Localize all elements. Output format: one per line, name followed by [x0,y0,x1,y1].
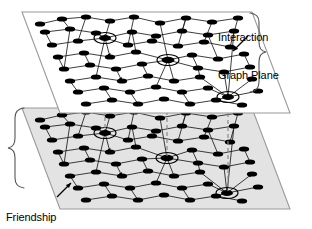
interaction-plane-label: Interaction Graph Plane [218,6,279,106]
figure-container: Interaction Graph Plane Friendship Graph… [0,0,312,229]
interaction-label-line2: Graph Plane [218,69,279,82]
interaction-label-line1: Interaction [218,31,279,44]
friendship-plane-label: Friendship Graph Plane [6,186,67,229]
friendship-brace [8,108,24,188]
friendship-label-line1: Friendship [6,211,67,224]
